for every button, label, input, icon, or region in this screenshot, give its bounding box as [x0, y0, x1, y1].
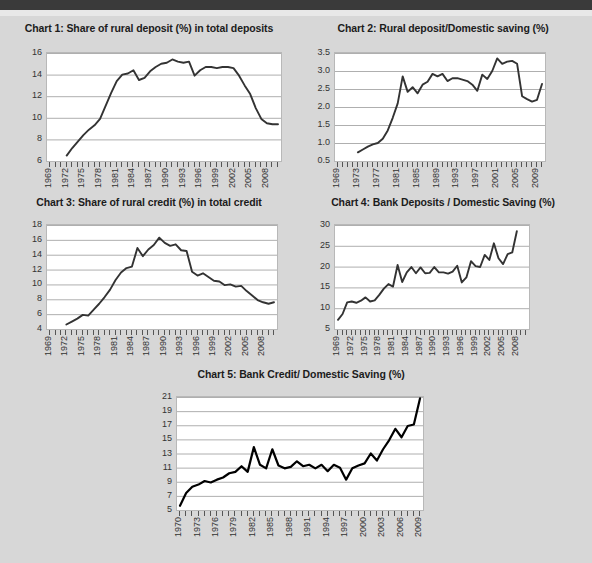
chart-3-x-tick: 1996 [192, 336, 201, 356]
chart-5-x-tick: 1997 [340, 517, 349, 537]
chart-4-y-tick: 10 [320, 303, 330, 312]
chart-4-plot-wrap: 51015202530 1969197219751978198119841987… [300, 210, 586, 365]
chart-1-x-ticks [46, 162, 282, 167]
chart-2-plot-area [334, 52, 546, 162]
chart-3-title: Chart 3: Share of rural credit (%) in to… [8, 196, 290, 208]
chart-2-x-tick: 1981 [392, 168, 401, 188]
chart-1-x-tick: 1969 [44, 168, 53, 188]
chart-3-x-tick: 2008 [257, 336, 266, 356]
chart-3-y-tick: 10 [32, 279, 42, 288]
chart-3-x-tick: 1999 [208, 336, 217, 356]
chart-2-series-line [358, 58, 542, 152]
chart-1-y-tick: 12 [32, 91, 42, 100]
chart-5-y-tick: 17 [162, 420, 172, 429]
chart-1-y-tick: 10 [32, 112, 42, 121]
chart-1-x-tick: 1990 [161, 168, 170, 188]
chart-5-x-tick: 2009 [414, 517, 423, 537]
chart-2-x-tick: 1977 [372, 168, 381, 188]
chart-5-y-tick: 5 [167, 505, 172, 514]
chart-5-x-tick: 2003 [377, 517, 386, 537]
chart-5-x-tick: 2006 [396, 517, 405, 537]
chart-3-y-tick: 14 [32, 249, 42, 258]
chart-5-x-tick: 1976 [211, 517, 220, 537]
chart-2-x-tick: 1985 [412, 168, 421, 188]
chart-5-x-tick: 1982 [248, 517, 257, 537]
chart-4-x-tick: 2002 [483, 336, 492, 356]
chart-4-x-tick: 1990 [428, 336, 437, 356]
chart-2-x-tick: 2009 [531, 168, 540, 188]
chart-5-y-tick: 13 [162, 448, 172, 457]
chart-5-plot-area [176, 396, 424, 511]
chart-1-x-tick: 2008 [261, 168, 270, 188]
chart-3-series-line [66, 238, 274, 325]
chart-1-y-tick: 8 [37, 134, 42, 143]
chart-4-x-tick: 1978 [373, 336, 382, 356]
chart-1-svg [47, 53, 281, 161]
chart-2-x-tick: 2001 [491, 168, 500, 188]
chart-3-plot-area [46, 224, 278, 330]
chart-5-y-tick: 21 [162, 392, 172, 401]
chart-3-block: Chart 3: Share of rural credit (%) in to… [8, 196, 290, 371]
chart-5-x-tick: 1979 [229, 517, 238, 537]
chart-5-x-tick: 2000 [359, 517, 368, 537]
chart-5-series-line [180, 398, 420, 505]
chart-3-x-tick: 1993 [175, 336, 184, 356]
charts-sheet: Chart 1: Share of rural deposit (%) in t… [0, 16, 592, 563]
chart-1-x-tick: 1999 [211, 168, 220, 188]
chart-3-svg [47, 225, 277, 329]
chart-5-x-tick: 1994 [322, 517, 331, 537]
chart-4-x-ticks [334, 330, 530, 335]
chart-1-x-tick: 1996 [194, 168, 203, 188]
chart-1-x-tick: 1993 [178, 168, 187, 188]
chart-5-x-tick: 1985 [266, 517, 275, 537]
chart-4-title: Chart 4: Bank Deposits / Domestic Saving… [300, 196, 586, 208]
chart-5-y-tick: 9 [167, 476, 172, 485]
window-top-bar [0, 0, 592, 10]
chart-4-svg [335, 225, 529, 329]
chart-3-x-tick: 2005 [241, 336, 250, 356]
chart-4-x-tick: 1975 [360, 336, 369, 356]
chart-2-y-tick: 0.5 [317, 156, 330, 165]
chart-3-y-tick: 16 [32, 234, 42, 243]
chart-2-y-tick: 1.0 [317, 138, 330, 147]
chart-2-x-tick: 1973 [352, 168, 361, 188]
chart-1-x-tick: 1984 [127, 168, 136, 188]
chart-1-x-tick: 2002 [228, 168, 237, 188]
chart-1-series-line [67, 59, 278, 155]
chart-1-x-tick: 1987 [144, 168, 153, 188]
chart-5-x-tick: 1970 [174, 517, 183, 537]
chart-1-x-tick: 1981 [111, 168, 120, 188]
chart-4-x-tick: 1969 [332, 336, 341, 356]
chart-4-x-tick: 1981 [387, 336, 396, 356]
chart-1-y-tick: 16 [32, 48, 42, 57]
chart-2-y-tick: 1.5 [317, 120, 330, 129]
chart-2-x-tick: 2005 [511, 168, 520, 188]
chart-4-x-tick: 1972 [346, 336, 355, 356]
chart-3-x-tick: 2002 [224, 336, 233, 356]
chart-1-y-tick: 14 [32, 69, 42, 78]
chart-2-y-tick: 3.5 [317, 48, 330, 57]
chart-4-y-tick: 20 [320, 261, 330, 270]
chart-2-y-tick: 2.0 [317, 102, 330, 111]
chart-3-y-tick: 8 [37, 294, 42, 303]
chart-4-y-tick: 5 [325, 324, 330, 333]
chart-5-block: Chart 5: Bank Credit/ Domestic Saving (%… [146, 368, 456, 558]
chart-5-x-ticks [176, 511, 424, 516]
chart-3-x-ticks [46, 330, 278, 335]
chart-4-y-tick: 30 [320, 220, 330, 229]
chart-5-y-tick: 15 [162, 434, 172, 443]
chart-1-y-axis-labels: 6810121416 [18, 52, 42, 162]
chart-2-title: Chart 2: Rural deposit/Domestic saving (… [300, 22, 586, 34]
chart-2-x-tick: 1989 [432, 168, 441, 188]
chart-5-x-tick: 1988 [285, 517, 294, 537]
chart-1-x-tick: 1972 [61, 168, 70, 188]
chart-2-x-tick: 1997 [471, 168, 480, 188]
chart-2-y-axis-labels: 0.51.01.52.02.53.03.5 [306, 52, 330, 162]
chart-5-y-axis-labels: 579111315171921 [152, 396, 172, 511]
chart-5-x-axis-labels: 1970197319761979198219851988199119941997… [176, 517, 424, 563]
chart-1-x-tick: 1975 [77, 168, 86, 188]
chart-2-x-tick: 1993 [451, 168, 460, 188]
chart-5-y-tick: 19 [162, 406, 172, 415]
chart-2-block: Chart 2: Rural deposit/Domestic saving (… [300, 22, 586, 202]
chart-4-x-tick: 2005 [497, 336, 506, 356]
